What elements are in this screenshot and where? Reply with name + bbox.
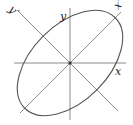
y-axis-label: y <box>59 10 67 23</box>
origin-point <box>68 61 71 64</box>
x-axis-label: x <box>115 65 122 78</box>
diagram-canvas: x y x′ y′ <box>0 0 133 125</box>
y-prime-axis-label: y′ <box>5 2 21 18</box>
x-prime-axis-label: x′ <box>111 0 127 12</box>
ellipse-axes-diagram: x y x′ y′ <box>0 0 133 125</box>
y-prime-axis <box>18 11 118 111</box>
